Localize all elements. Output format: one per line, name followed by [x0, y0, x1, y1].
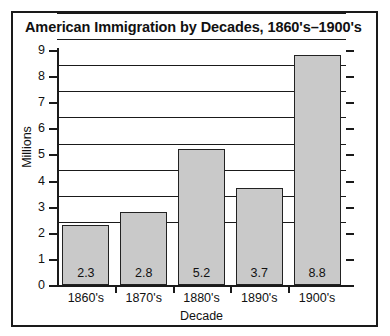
y-tick-label: 7 [23, 95, 45, 109]
gridline [57, 39, 346, 40]
y-tick [49, 102, 57, 104]
y-tick-right [346, 233, 354, 235]
bar-value-label: 2.8 [121, 266, 166, 280]
x-axis-line [49, 285, 354, 287]
y-tick-label: 0 [23, 278, 45, 292]
y-tick [49, 154, 57, 156]
y-tick [49, 285, 57, 287]
y-tick-right [346, 128, 354, 130]
bar: 8.8 [294, 55, 341, 285]
chart-frame: American Immigration by Decades, 1860's–… [11, 11, 378, 327]
y-tick [49, 233, 57, 235]
y-tick-right [346, 76, 354, 78]
y-tick-label: 4 [23, 174, 45, 188]
y-tick-right [346, 102, 354, 104]
y-tick-right [346, 285, 354, 287]
bar-value-label: 2.3 [63, 266, 108, 280]
y-tick [49, 76, 57, 78]
y-tick-right [346, 259, 354, 261]
x-axis-title: Decade [57, 309, 346, 323]
y-tick-label: 5 [23, 147, 45, 161]
bar: 2.8 [120, 212, 167, 285]
y-tick-label: 2 [23, 226, 45, 240]
y-tick-label: 9 [23, 43, 45, 57]
bar: 3.7 [236, 188, 283, 285]
y-tick [49, 50, 57, 52]
plot-area: 2.32.85.23.78.8 [57, 50, 346, 285]
bar: 5.2 [178, 149, 225, 285]
chart-title: American Immigration by Decades, 1860's–… [25, 19, 370, 35]
x-tick-label: 1870's [115, 291, 173, 305]
y-tick-label: 8 [23, 69, 45, 83]
x-tick-label: 1890's [230, 291, 288, 305]
x-tick-label: 1860's [57, 291, 115, 305]
y-tick-label: 6 [23, 121, 45, 135]
y-tick-right [346, 181, 354, 183]
y-tick-right [346, 154, 354, 156]
gridline [57, 13, 346, 14]
bar-value-label: 5.2 [179, 266, 224, 280]
y-tick-right [346, 207, 354, 209]
y-tick-label: 1 [23, 252, 45, 266]
y-tick-right [346, 50, 354, 52]
screenshot-root: American Immigration by Decades, 1860's–… [0, 0, 390, 336]
x-tick-label: 1880's [173, 291, 231, 305]
bar-value-label: 8.8 [295, 266, 340, 280]
bar: 2.3 [62, 225, 109, 285]
y-tick [49, 181, 57, 183]
y-tick [49, 207, 57, 209]
x-tick-label: 1900's [288, 291, 346, 305]
y-tick [49, 259, 57, 261]
y-tick [49, 128, 57, 130]
y-tick-label: 3 [23, 200, 45, 214]
bar-value-label: 3.7 [237, 266, 282, 280]
